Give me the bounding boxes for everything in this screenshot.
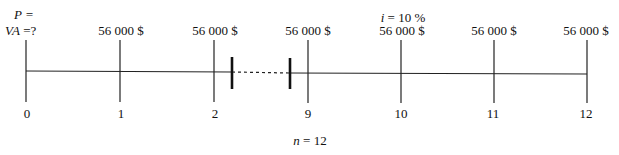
- present-value-label-line1: P =: [14, 8, 34, 22]
- period-label-0: 0: [24, 107, 31, 121]
- timeline-axis-right: [290, 73, 587, 74]
- period-label-11: 11: [487, 107, 500, 121]
- timeline-axis-break: [232, 72, 290, 73]
- present-value-label-line2: VA =?: [5, 24, 36, 38]
- period-label-10: 10: [395, 107, 408, 121]
- present-value-p: P =: [14, 7, 34, 22]
- period-label-2: 2: [212, 107, 219, 121]
- present-value-var: VA: [5, 23, 20, 38]
- amount-label-12: 56 000 $: [563, 24, 609, 38]
- periods-value: = 12: [300, 133, 327, 148]
- amount-label-1: 56 000 $: [98, 24, 144, 38]
- amount-label-9: 56 000 $: [285, 24, 331, 38]
- timeline-axis-left: [26, 71, 232, 72]
- amount-label-10: 56 000 $: [379, 24, 425, 38]
- period-label-1: 1: [118, 107, 125, 121]
- present-value-question: =?: [20, 23, 36, 38]
- period-label-9: 9: [305, 107, 312, 121]
- period-label-12: 12: [580, 107, 593, 121]
- amount-label-2: 56 000 $: [192, 24, 238, 38]
- periods-label: n = 12: [293, 134, 326, 148]
- amount-label-11: 56 000 $: [471, 24, 517, 38]
